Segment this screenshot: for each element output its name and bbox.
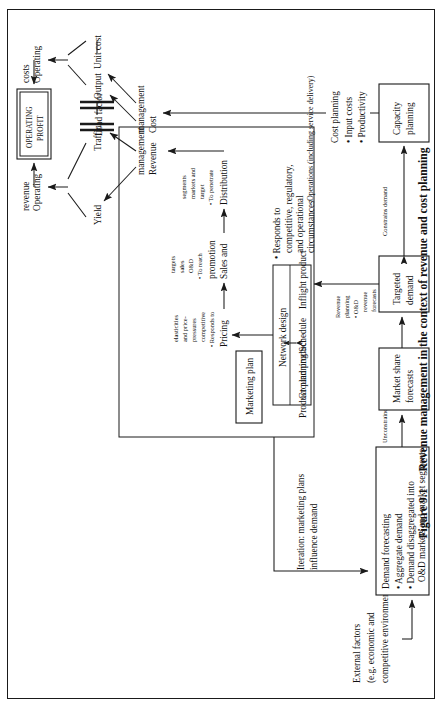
diagram-canvas: External factors (e.g. economic and comp… — [8, 9, 436, 699]
cost-management-node: Cost management — [136, 85, 158, 133]
pricing-node: Pricing • Responds to competitive pressu… — [172, 312, 229, 347]
revenue-planning-line5: forecasts — [370, 289, 377, 312]
cost-planning-bullet1: • Input costs — [344, 96, 354, 143]
external-factors-node: External factors (e.g. economic and comp… — [352, 583, 391, 683]
iteration-line1: Iteration: marketing plans — [296, 474, 306, 570]
distribution-node: Distribution • To penetrate target marke… — [180, 160, 229, 205]
yield-join-line — [68, 193, 86, 217]
revenue-management-line2: management — [136, 127, 146, 175]
unit-cost-join-line — [68, 41, 86, 55]
operating-costs-line2: costs — [21, 64, 31, 83]
cost-management-line1: Cost — [148, 116, 158, 133]
operating-costs-node: Operating costs — [21, 45, 42, 83]
operating-profit-outer-box — [17, 89, 51, 159]
label-constrains-demand: Constrains demand — [381, 186, 388, 236]
distribution-b3: markets and — [189, 167, 196, 199]
revenue-planning-line2: planning — [343, 295, 350, 318]
arrow-revenue-management-to-yield — [104, 167, 136, 201]
iteration-label: Iteration: marketing plans influence dem… — [296, 474, 319, 570]
cost-planning-bullet2: • Productivity — [357, 91, 367, 143]
revenue-planning-label: Revenue planning • O&D revenue forecasts — [334, 289, 377, 318]
load-factor-label: Load factor — [94, 92, 104, 136]
sales-promotion-b2: O&D — [187, 258, 194, 273]
cost-management-line2: management — [136, 85, 146, 133]
operating-profit-line1: OPERATING — [26, 106, 34, 148]
sales-promotion-label1: Sales and — [219, 243, 229, 279]
figure-caption: Revenue management in the context of rev… — [417, 147, 430, 471]
inflight-product-label: Inflight product — [298, 250, 308, 309]
pricing-label: Pricing — [219, 320, 229, 347]
arrow-cost-management-to-unit-cost — [108, 74, 136, 103]
rotated-figure-wrapper: External factors (e.g. economic and comp… — [0, 0, 444, 708]
product-responds-line3: and operational — [295, 195, 305, 253]
revenue-planning-line3: • O&D — [352, 300, 359, 318]
figure-page: External factors (e.g. economic and comp… — [0, 0, 444, 708]
pricing-b4: and price- — [181, 316, 188, 342]
distribution-label: Distribution — [219, 160, 229, 205]
external-factors-line1: External factors — [352, 624, 362, 683]
schedule-label: Schedule — [298, 318, 308, 352]
external-factors-line3: competitive environments) — [380, 583, 391, 683]
cost-planning-title: Cost planning — [330, 91, 340, 143]
arrow-revenue-management-to-traffic — [110, 133, 136, 151]
revenue-planning-line4: revenue — [361, 292, 368, 312]
external-factors-line2: (e.g. economic and — [366, 612, 377, 683]
figure-caption-wrapper: Figure 9.1 Revenue management in the con… — [398, 0, 438, 708]
sales-promotion-b4: targets — [169, 256, 176, 273]
product-responds-line1: • Responds to — [272, 207, 282, 259]
demand-forecasting-title: Demand forecasting — [381, 514, 391, 589]
sales-promotion-b1: • To reach — [196, 252, 203, 279]
distribution-b4: segments — [180, 175, 187, 199]
revenue-management-line1: Revenue — [148, 142, 158, 175]
pricing-b5: elasticities — [172, 315, 179, 342]
operating-revenue-node: Operating revenue — [21, 173, 42, 211]
pricing-b1: • Responds to — [208, 312, 215, 347]
sales-promotion-label2: promotion — [207, 240, 217, 279]
marketing-plan-label: Marketing plan — [245, 358, 255, 415]
operating-profit-line2: PROFIT — [37, 115, 45, 141]
distribution-b2: target — [198, 184, 205, 199]
yield-label: Yield — [93, 205, 103, 225]
output-join-line — [68, 65, 86, 85]
iteration-line2: influence demand — [309, 503, 319, 570]
figure-number: Figure 9.1 — [417, 489, 430, 539]
cost-planning-node: Cost planning • Input costs • Productivi… — [330, 91, 367, 143]
unit-cost-label: Unit cost — [93, 35, 103, 69]
sales-promotion-node: Sales and promotion • To reach O&D sales… — [169, 240, 229, 279]
pricing-b3: pressures — [190, 318, 197, 342]
distribution-b1: • To penetrate — [207, 169, 214, 205]
arrow-iteration-feedback — [274, 437, 368, 571]
network-design-label: Network design — [278, 308, 288, 367]
operating-revenue-line2: revenue — [21, 182, 31, 211]
sales-promotion-b3: sales — [178, 260, 185, 273]
pricing-b2: competitive — [199, 312, 206, 342]
revenue-management-node: Revenue management — [136, 127, 158, 175]
product-responds-line4: circumstances — [306, 200, 316, 253]
product-responds-line2: competitive, regulatory, — [284, 165, 294, 253]
traffic-join-line — [68, 143, 86, 179]
revenue-planning-line1: Revenue — [334, 295, 341, 318]
